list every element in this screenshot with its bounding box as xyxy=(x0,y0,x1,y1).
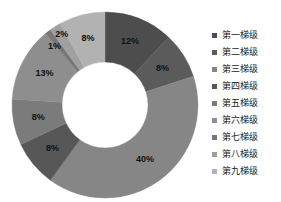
slice-percent-label: 12% xyxy=(121,36,139,46)
legend-swatch-icon xyxy=(212,67,217,72)
slice-percent-label: 1% xyxy=(48,41,61,51)
legend-swatch-icon xyxy=(212,33,217,38)
legend-item-label: 第六梯级 xyxy=(222,112,258,129)
legend-item-label: 第七梯级 xyxy=(222,129,258,146)
legend-item[interactable]: 第九梯级 xyxy=(212,163,281,180)
donut-chart-figure: 12%8%40%8%8%13%1%2%8% 第一梯级第二梯级第三梯级第四梯级第五… xyxy=(0,0,281,202)
legend-swatch-icon xyxy=(212,152,217,157)
slice-percent-label: 13% xyxy=(35,68,53,78)
legend-item-label: 第八梯级 xyxy=(222,146,258,163)
slice-percent-label: 8% xyxy=(46,143,59,153)
legend-item[interactable]: 第二梯级 xyxy=(212,44,281,61)
legend-item[interactable]: 第四梯级 xyxy=(212,78,281,95)
legend-item[interactable]: 第五梯级 xyxy=(212,95,281,112)
slice-percent-label: 40% xyxy=(136,154,154,164)
legend-swatch-icon xyxy=(212,169,217,174)
legend-swatch-icon xyxy=(212,118,217,123)
legend-item-label: 第五梯级 xyxy=(222,95,258,112)
donut-slices xyxy=(12,12,198,198)
legend-swatch-icon xyxy=(212,84,217,89)
legend-item[interactable]: 第六梯级 xyxy=(212,112,281,129)
slice-percent-label: 2% xyxy=(55,29,68,39)
legend-swatch-icon xyxy=(212,50,217,55)
legend-item[interactable]: 第三梯级 xyxy=(212,61,281,78)
chart-legend: 第一梯级第二梯级第三梯级第四梯级第五梯级第六梯级第七梯级第八梯级第九梯级 xyxy=(212,27,281,180)
legend-item-label: 第二梯级 xyxy=(222,44,258,61)
legend-swatch-icon xyxy=(212,135,217,140)
legend-item-label: 第九梯级 xyxy=(222,163,258,180)
donut-svg: 12%8%40%8%8%13%1%2%8% xyxy=(0,0,212,202)
legend-swatch-icon xyxy=(212,101,217,106)
legend-item[interactable]: 第八梯级 xyxy=(212,146,281,163)
donut-plot-area: 12%8%40%8%8%13%1%2%8% xyxy=(0,0,212,202)
legend-item-label: 第一梯级 xyxy=(222,27,258,44)
slice-percent-label: 8% xyxy=(156,63,169,73)
legend-item[interactable]: 第七梯级 xyxy=(212,129,281,146)
legend-item-label: 第三梯级 xyxy=(222,61,258,78)
legend-item[interactable]: 第一梯级 xyxy=(212,27,281,44)
slice-percent-label: 8% xyxy=(32,112,45,122)
slice-percent-label: 8% xyxy=(82,33,95,43)
legend-item-label: 第四梯级 xyxy=(222,78,258,95)
